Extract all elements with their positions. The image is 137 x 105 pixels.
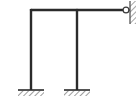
frame-canvas	[0, 0, 137, 105]
pin-hinge-circle	[123, 7, 129, 13]
pin-hinge	[123, 7, 130, 13]
left-base-ground-hatch	[18, 90, 44, 96]
hatched-wall-right	[130, 1, 136, 24]
structural-frame-diagram	[0, 0, 137, 105]
fixed-support-middle	[64, 90, 90, 96]
rigid-corner-joint	[30, 9, 32, 11]
wall-hatch-fill	[130, 1, 136, 24]
rigid-tee-joint	[76, 9, 78, 11]
middle-base-ground-hatch	[64, 90, 90, 96]
fixed-support-left	[18, 90, 44, 96]
